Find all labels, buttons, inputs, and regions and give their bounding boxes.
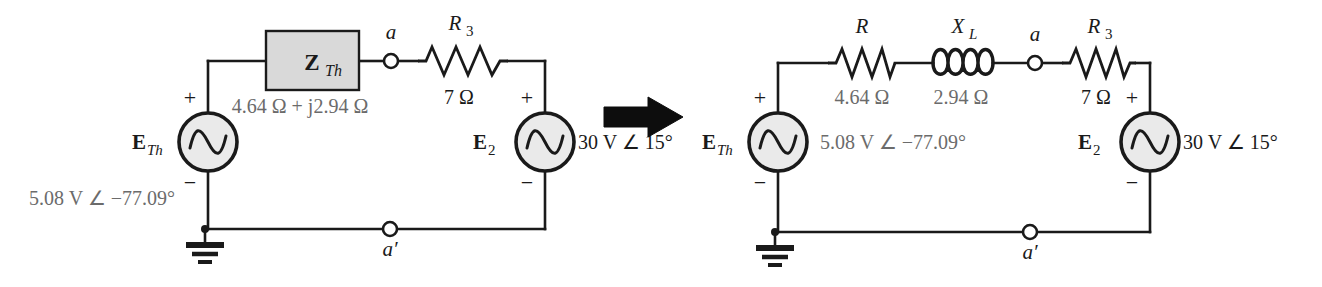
eth-plus-left: +	[184, 85, 196, 110]
eth-subscript-right: Th	[717, 142, 733, 158]
xl-subscript-right: L	[968, 26, 977, 42]
eth-symbol-left: E	[132, 130, 146, 154]
zth-symbol: Z	[304, 50, 319, 75]
circuit-canvas: Z Th 4.64 Ω + j2.94 Ω a a′ R 3 7 Ω + − E…	[0, 0, 1322, 287]
e2-minus-left: −	[521, 170, 533, 195]
resistor-r3-right	[1062, 49, 1136, 77]
eth-minus-right: −	[754, 170, 766, 195]
resistor-r3-left	[418, 47, 508, 75]
r3-value-left: 7 Ω	[444, 86, 474, 108]
ground-symbol-right	[756, 248, 794, 265]
left-junction-dot	[201, 225, 209, 233]
left-circuit: Z Th 4.64 Ω + j2.94 Ω a a′ R 3 7 Ω + − E…	[29, 11, 673, 262]
r-symbol-right: R	[855, 14, 869, 38]
node-a-terminal[interactable]	[384, 54, 398, 68]
node-a-label-right: a	[1030, 22, 1041, 46]
r3-symbol-left: R	[448, 11, 462, 35]
xl-value-right: 2.94 Ω	[934, 86, 989, 108]
eth-value-left: 5.08 V ∠ −77.09°	[29, 187, 175, 209]
e2-subscript-left: 2	[488, 142, 496, 158]
r3-symbol-right: R	[1087, 14, 1101, 38]
e2-value-left: 30 V ∠ 15°	[578, 131, 673, 153]
node-a-terminal-right[interactable]	[1028, 56, 1042, 70]
e2-value-right: 30 V ∠ 15°	[1183, 131, 1278, 153]
eth-minus-left: −	[184, 170, 196, 195]
right-circuit: R 4.64 Ω X L 2.94 Ω a a′ R 3 7 Ω + − E T…	[702, 14, 1278, 265]
e2-plus-right: +	[1126, 85, 1138, 110]
right-junction-dot	[771, 228, 779, 236]
e2-symbol-right: E	[1078, 130, 1092, 154]
node-a-prime-label-right: a′	[1022, 240, 1038, 264]
xl-symbol-right: X	[951, 14, 966, 38]
zth-value: 4.64 Ω + j2.94 Ω	[232, 95, 369, 118]
resistor-r-right	[828, 49, 895, 77]
eth-subscript-left: Th	[147, 142, 163, 158]
e2-minus-right: −	[1126, 170, 1138, 195]
inductor-xl-right	[933, 50, 993, 75]
r3-subscript-left: 3	[466, 23, 474, 39]
r3-subscript-right: 3	[1105, 26, 1113, 42]
ground-symbol	[186, 245, 224, 262]
r-value-right: 4.64 Ω	[835, 86, 890, 108]
zth-subscript: Th	[325, 62, 342, 79]
node-a-prime-terminal[interactable]	[383, 222, 397, 236]
eth-value-right: 5.08 V ∠ −77.09°	[820, 131, 966, 153]
node-a-prime-label: a′	[382, 237, 398, 261]
eth-symbol-right: E	[702, 130, 716, 154]
node-a-prime-terminal-right[interactable]	[1023, 225, 1037, 239]
circuit-figure: Z Th 4.64 Ω + j2.94 Ω a a′ R 3 7 Ω + − E…	[0, 0, 1322, 287]
e2-symbol-left: E	[473, 130, 487, 154]
node-a-label: a	[386, 20, 397, 44]
r3-value-right: 7 Ω	[1081, 86, 1111, 108]
e2-subscript-right: 2	[1093, 142, 1101, 158]
e2-plus-left: +	[521, 85, 533, 110]
eth-plus-right: +	[754, 85, 766, 110]
